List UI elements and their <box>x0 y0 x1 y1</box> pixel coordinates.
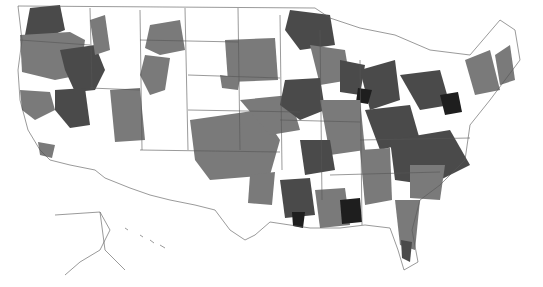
us-choropleth-map <box>0 0 543 287</box>
state-fills <box>20 5 515 262</box>
